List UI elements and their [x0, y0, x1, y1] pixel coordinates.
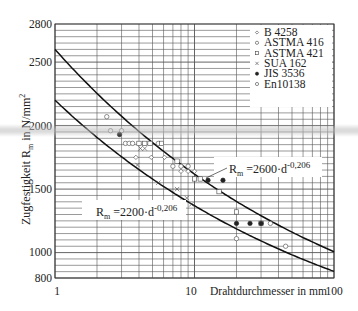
y-axis-label: Zugfestigkeit Rm in N/mm2 — [18, 94, 35, 225]
x-tick: 100 — [325, 285, 343, 297]
x-tick: 1 — [54, 285, 60, 297]
legend: B 4258ASTMA 416ASTMA 421SUA 162JIS 3536E… — [250, 25, 332, 107]
lower-equation-label: Rm =2200·d-0,206 — [82, 200, 186, 221]
x-axis-ticks: 1 10 100 Drahtdurchmesser in mm — [54, 285, 343, 297]
data-points — [105, 115, 288, 249]
x-axis-label: Drahtdurchmesser in mm — [210, 285, 327, 297]
y-tick: 2800 — [29, 18, 52, 30]
y-tick: 800 — [35, 272, 53, 284]
y-tick: 2500 — [29, 56, 52, 68]
legend-item-label: En10138 — [264, 78, 306, 90]
upper-equation-label: Rm =2600·d-0,206 — [206, 157, 322, 178]
x-tick: 10 — [185, 285, 197, 297]
strength-vs-diameter-chart: B 4258ASTMA 416ASTMA 421SUA 162JIS 3536E… — [0, 0, 358, 311]
y-tick: 1000 — [29, 246, 52, 258]
